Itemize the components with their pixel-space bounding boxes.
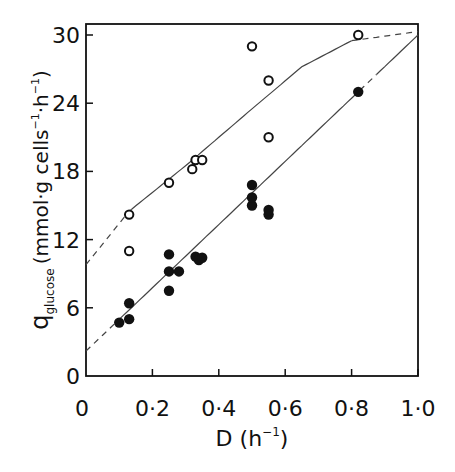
filled-data-point [124, 314, 134, 324]
filled-data-point [197, 253, 207, 263]
filled-data-point [164, 266, 174, 276]
y-tick-label: 30 [52, 23, 80, 48]
fit-line [377, 35, 419, 75]
filled-data-point [247, 180, 257, 190]
filled-data-point [114, 317, 124, 327]
filled-data-point [263, 205, 273, 215]
x-tick-label: 0·6 [268, 396, 303, 421]
chart: 00·20·40·60·81·00612182430 D (h−1) qgluc… [0, 0, 455, 472]
x-tick-label: 0·4 [201, 396, 236, 421]
svg-text:qglucose(mmol·g cells−1·h−1): qglucose(mmol·g cells−1·h−1) [26, 70, 57, 329]
open-data-point [354, 31, 362, 39]
fit-line [119, 90, 360, 319]
y-tick-label: 6 [66, 296, 80, 321]
x-axis-label: D (h−1) [216, 425, 289, 451]
y-tick-label: 0 [66, 364, 80, 389]
y-tick-label: 12 [52, 228, 80, 253]
axis-ticks: 00·20·40·60·81·00612182430 [52, 23, 436, 421]
y-axis-label: qglucose(mmol·g cells−1·h−1) [26, 70, 57, 329]
open-data-point [264, 133, 272, 141]
open-data-point [125, 210, 133, 218]
x-tick-label: 0·2 [135, 396, 170, 421]
filled-data-point [164, 286, 174, 296]
x-tick-label: 0·8 [334, 396, 369, 421]
open-data-point [248, 42, 256, 50]
filled-data-point [124, 298, 134, 308]
fit-line-dashed [86, 319, 119, 351]
fit-lines [86, 32, 418, 351]
filled-data-point [174, 266, 184, 276]
filled-data-point [164, 249, 174, 259]
open-data-point [125, 247, 133, 255]
fit-line-dashed [86, 209, 132, 264]
x-tick-label: 0 [75, 396, 89, 421]
y-tick-label: 24 [52, 91, 80, 116]
fit-line-dashed [360, 75, 377, 91]
y-tick-label: 18 [52, 159, 80, 184]
open-data-point [188, 165, 196, 173]
data-points [114, 31, 363, 328]
x-tick-label: 1·0 [401, 396, 436, 421]
open-data-point [165, 179, 173, 187]
open-data-point [264, 76, 272, 84]
filled-data-point [353, 87, 363, 97]
filled-data-point [247, 192, 257, 202]
open-data-point [198, 156, 206, 164]
